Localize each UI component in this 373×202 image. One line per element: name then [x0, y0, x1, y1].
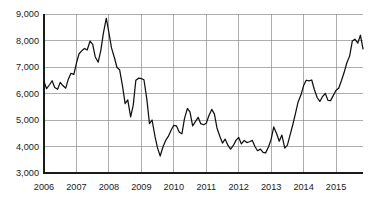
y-tick-label: 7,000: [16, 62, 39, 72]
x-tick-label: 2009: [131, 182, 151, 192]
x-tick-label: 2007: [66, 182, 86, 192]
x-tick-label: 2008: [99, 182, 119, 192]
x-axis-tick-labels: 2006200720082009201020112012201320142015: [34, 182, 347, 192]
y-tick-label: 9,000: [16, 9, 39, 19]
x-tick-label: 2011: [196, 182, 216, 192]
x-tick-label: 2006: [34, 182, 54, 192]
y-axis-tick-labels: 3,0004,0005,0006,0007,0008,0009,000: [16, 9, 39, 178]
data-series-line: [44, 18, 363, 156]
y-tick-label: 8,000: [16, 36, 39, 46]
chart-canvas: 3,0004,0005,0006,0007,0008,0009,000 2006…: [0, 0, 373, 202]
x-tick-label: 2015: [326, 182, 346, 192]
x-tick-label: 2014: [293, 182, 313, 192]
y-tick-label: 4,000: [16, 142, 39, 152]
x-tick-label: 2012: [228, 182, 248, 192]
x-tick-label: 2013: [261, 182, 281, 192]
x-tick-label: 2010: [164, 182, 184, 192]
y-tick-label: 6,000: [16, 89, 39, 99]
line-chart-figure: 3,0004,0005,0006,0007,0008,0009,000 2006…: [0, 0, 373, 202]
y-tick-label: 5,000: [16, 115, 39, 125]
y-tick-label: 3,000: [16, 168, 39, 178]
